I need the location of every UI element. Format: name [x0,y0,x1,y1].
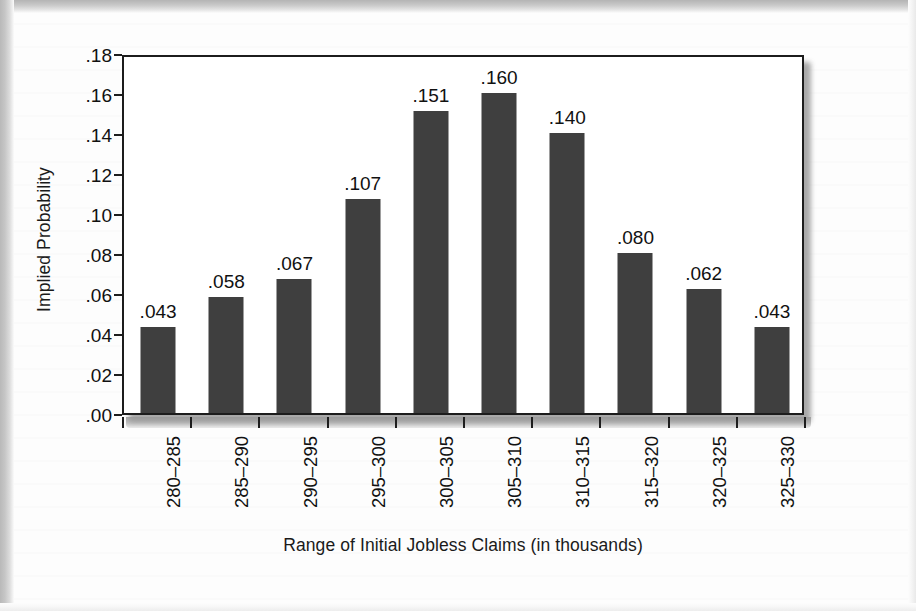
x-tick-mark [463,417,465,428]
y-tick-mark [114,374,122,376]
y-tick-label: .16 [56,86,112,105]
x-tick-label: 310–315 [574,436,593,546]
bar-value-label: .140 [549,108,586,127]
y-tick-label: .08 [56,246,112,265]
x-tick-mark [190,417,192,428]
bar-slot: .043 [738,57,806,413]
bar-slot: .058 [192,57,260,413]
bar[interactable] [482,93,517,413]
bar[interactable] [550,133,585,413]
bar-value-label: .062 [685,264,722,283]
bar[interactable] [754,327,789,413]
x-axis-tick-marks [122,417,804,431]
plot-area: .043.058.067.107.151.160.140.080.062.043 [122,55,804,415]
bar[interactable] [209,297,244,413]
x-tick-label: 285–290 [233,436,252,546]
y-tick-label: .00 [56,406,112,425]
bar-value-label: .160 [481,68,518,87]
bar[interactable] [618,253,653,413]
x-tick-label: 305–310 [506,436,525,546]
bar-slot: .080 [601,57,669,413]
bar[interactable] [413,111,448,413]
bar[interactable] [141,327,176,413]
bar-slot: .151 [397,57,465,413]
x-tick-label: 325–330 [779,436,798,546]
bar-value-label: .151 [412,86,449,105]
x-axis-title: Range of Initial Jobless Claims (in thou… [122,535,804,556]
x-tick-mark [258,417,260,428]
x-tick-label: 320–325 [711,436,730,546]
x-tick-mark [395,417,397,428]
y-axis-title: Implied Probability [34,90,55,390]
x-tick-label: 300–305 [438,436,457,546]
x-tick-label: 295–300 [370,436,389,546]
y-tick-mark [114,334,122,336]
bar-value-label: .043 [140,302,177,321]
x-tick-mark [122,417,124,428]
y-tick-mark [114,294,122,296]
y-tick-label: .10 [56,206,112,225]
y-tick-mark [114,134,122,136]
bar-slot: .160 [465,57,533,413]
x-tick-mark [736,417,738,428]
y-tick-mark [114,174,122,176]
y-tick-mark [114,54,122,56]
y-tick-label: .14 [56,126,112,145]
bar-chart-figure: Implied Probability .00.02.04.06.08.10.1… [0,0,916,611]
bar-value-label: .043 [753,302,790,321]
bar-slot: .107 [329,57,397,413]
x-axis-tick-labels: 280–285285–290290–295295–300300–305305–3… [122,432,804,527]
y-tick-label: .18 [56,46,112,65]
x-tick-label: 290–295 [302,436,321,546]
bar-value-label: .067 [276,254,313,273]
x-tick-mark [327,417,329,428]
bar-slot: .067 [260,57,328,413]
x-tick-mark [668,417,670,428]
x-tick-mark [599,417,601,428]
y-tick-mark [114,94,122,96]
bar-slot: .043 [124,57,192,413]
x-tick-label: 315–320 [643,436,662,546]
bar[interactable] [277,279,312,413]
y-tick-label: .06 [56,286,112,305]
bar-slot: .140 [533,57,601,413]
bar[interactable] [345,199,380,413]
y-tick-label: .02 [56,366,112,385]
y-tick-label: .04 [56,326,112,345]
x-tick-mark [531,417,533,428]
x-tick-mark [804,417,806,428]
y-tick-label: .12 [56,166,112,185]
x-tick-label: 280–285 [165,436,184,546]
bar-value-label: .080 [617,228,654,247]
y-tick-mark [114,214,122,216]
bar-slot: .062 [670,57,738,413]
bar-value-label: .058 [208,272,245,291]
bar[interactable] [686,289,721,413]
y-tick-mark [114,414,122,416]
y-axis-tick-labels: .00.02.04.06.08.10.12.14.16.18 [56,0,112,611]
y-tick-mark [114,254,122,256]
bar-series: .043.058.067.107.151.160.140.080.062.043 [124,57,802,413]
bar-value-label: .107 [344,174,381,193]
